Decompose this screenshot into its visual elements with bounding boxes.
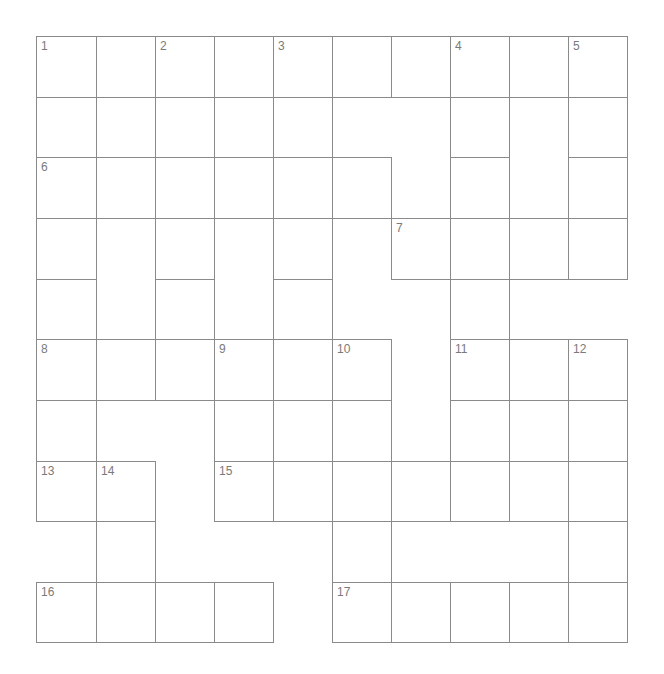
grid-cell-r0-c1[interactable] [96, 36, 156, 98]
grid-cell-r5-c7[interactable]: 11 [450, 339, 510, 401]
grid-cell-r7-c5[interactable] [332, 461, 392, 522]
clue-number: 4 [455, 40, 462, 52]
grid-cell-r9-c1[interactable] [96, 582, 156, 643]
grid-cell-r5-c4[interactable] [273, 339, 333, 401]
grid-cell-r6-c9[interactable] [568, 400, 628, 462]
clue-number: 5 [573, 40, 580, 52]
clue-number: 16 [41, 586, 54, 598]
grid-cell-r8-c1[interactable] [96, 521, 156, 583]
grid-cell-r3-c7[interactable] [450, 218, 510, 280]
grid-cell-r7-c0[interactable]: 13 [36, 461, 97, 522]
clue-number: 15 [219, 465, 232, 477]
grid-cell-r7-c6[interactable] [391, 461, 451, 522]
grid-cell-r6-c7[interactable] [450, 400, 510, 462]
clue-number: 14 [101, 465, 114, 477]
grid-cell-r1-c2[interactable] [155, 97, 215, 158]
grid-cell-r4-c0[interactable] [36, 279, 97, 340]
grid-cell-r2-c5[interactable] [332, 157, 392, 219]
clue-number: 10 [337, 343, 350, 355]
clue-number: 11 [455, 343, 467, 355]
grid-cell-r0-c8[interactable] [509, 36, 569, 98]
grid-cell-r1-c9[interactable] [568, 97, 628, 158]
grid-cell-r3-c9[interactable] [568, 218, 628, 280]
grid-cell-r0-c4[interactable]: 3 [273, 36, 333, 98]
grid-cell-r5-c3[interactable]: 9 [214, 339, 274, 401]
clue-number: 9 [219, 343, 226, 355]
grid-cell-r9-c2[interactable] [155, 582, 215, 643]
grid-cell-r6-c5[interactable] [332, 400, 392, 462]
clue-number: 8 [41, 343, 48, 355]
grid-cell-r9-c9[interactable] [568, 582, 628, 643]
grid-cell-r4-c2[interactable] [155, 279, 215, 340]
grid-cell-r4-c4[interactable] [273, 279, 333, 340]
grid-cell-r3-c2[interactable] [155, 218, 215, 280]
grid-cell-r0-c2[interactable]: 2 [155, 36, 215, 98]
grid-cell-r1-c7[interactable] [450, 97, 510, 158]
grid-cell-r0-c9[interactable]: 5 [568, 36, 628, 98]
grid-cell-r3-c4[interactable] [273, 218, 333, 280]
grid-cell-r7-c9[interactable] [568, 461, 628, 522]
grid-cell-r9-c0[interactable]: 16 [36, 582, 97, 643]
grid-cell-r0-c3[interactable] [214, 36, 274, 98]
grid-cell-r2-c0[interactable]: 6 [36, 157, 97, 219]
clue-number: 3 [278, 40, 285, 52]
clue-number: 1 [41, 40, 48, 52]
clue-number: 12 [573, 343, 586, 355]
clue-number: 13 [41, 465, 54, 477]
grid-cell-r7-c8[interactable] [509, 461, 569, 522]
grid-cell-r8-c9[interactable] [568, 521, 628, 583]
grid-cell-r3-c8[interactable] [509, 218, 569, 280]
grid-cell-r0-c7[interactable]: 4 [450, 36, 510, 98]
grid-cell-r0-c5[interactable] [332, 36, 392, 98]
grid-cell-r7-c3[interactable]: 15 [214, 461, 274, 522]
grid-cell-r2-c9[interactable] [568, 157, 628, 219]
grid-cell-r3-c6[interactable]: 7 [391, 218, 451, 280]
grid-cell-r2-c2[interactable] [155, 157, 215, 219]
grid-cell-r9-c8[interactable] [509, 582, 569, 643]
grid-cell-r6-c3[interactable] [214, 400, 274, 462]
crossword-grid: 1234567891011121314151617 [36, 36, 628, 642]
grid-cell-r9-c6[interactable] [391, 582, 451, 643]
clue-number: 17 [337, 586, 350, 598]
grid-cell-r0-c0[interactable]: 1 [36, 36, 97, 98]
grid-cell-r5-c8[interactable] [509, 339, 569, 401]
grid-cell-r8-c5[interactable] [332, 521, 392, 583]
grid-cell-r9-c7[interactable] [450, 582, 510, 643]
grid-cell-r5-c9[interactable]: 12 [568, 339, 628, 401]
grid-cell-r4-c7[interactable] [450, 279, 510, 340]
grid-cell-r1-c4[interactable] [273, 97, 333, 158]
grid-cell-r1-c0[interactable] [36, 97, 97, 158]
grid-cell-r5-c5[interactable]: 10 [332, 339, 392, 401]
grid-cell-r2-c4[interactable] [273, 157, 333, 219]
grid-cell-r3-c0[interactable] [36, 218, 97, 280]
grid-cell-r5-c2[interactable] [155, 339, 215, 401]
grid-cell-r9-c3[interactable] [214, 582, 274, 643]
clue-number: 7 [396, 222, 403, 234]
grid-cell-r9-c5[interactable]: 17 [332, 582, 392, 643]
grid-cell-r5-c0[interactable]: 8 [36, 339, 97, 401]
grid-cell-r2-c3[interactable] [214, 157, 274, 219]
grid-cell-r5-c1[interactable] [96, 339, 156, 401]
grid-cell-r0-c6[interactable] [391, 36, 451, 98]
clue-number: 2 [160, 40, 167, 52]
clue-number: 6 [41, 161, 48, 173]
grid-cell-r2-c1[interactable] [96, 157, 156, 219]
grid-cell-r2-c7[interactable] [450, 157, 510, 219]
grid-cell-r7-c1[interactable]: 14 [96, 461, 156, 522]
grid-cell-r7-c4[interactable] [273, 461, 333, 522]
grid-cell-r7-c7[interactable] [450, 461, 510, 522]
grid-cell-r6-c0[interactable] [36, 400, 97, 462]
